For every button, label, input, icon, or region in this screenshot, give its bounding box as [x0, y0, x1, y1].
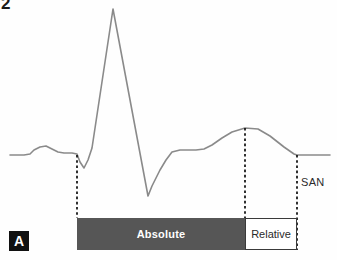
- san-annotation-label: SAN: [301, 176, 325, 188]
- absolute-refractory-bar: Absolute: [77, 218, 245, 250]
- ecg-waveform-trace: [10, 9, 330, 196]
- relative-refractory-bar: Relative: [245, 218, 297, 250]
- relative-refractory-label: Relative: [251, 228, 291, 240]
- absolute-refractory-label: Absolute: [137, 228, 186, 240]
- ecg-refractory-period-figure: 2 Absolute Relative SAN A: [0, 0, 337, 260]
- panel-label-a: A: [9, 231, 29, 251]
